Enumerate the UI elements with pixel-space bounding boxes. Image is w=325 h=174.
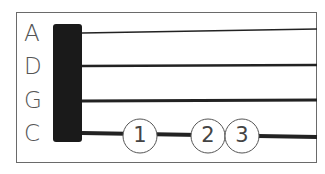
nut-block: [53, 24, 82, 142]
finger-label-2: 2: [191, 123, 225, 147]
finger-label-3: 3: [225, 123, 259, 147]
finger-label-1: 1: [123, 123, 157, 147]
string-g: [82, 100, 317, 101]
string-a: [82, 29, 317, 33]
string-d: [82, 65, 317, 66]
strings-diagram: [0, 0, 325, 174]
